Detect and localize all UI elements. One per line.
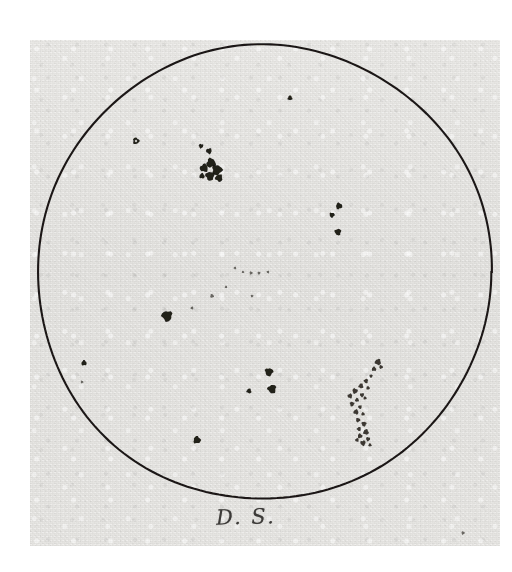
sunspot-mark	[267, 385, 277, 393]
sunspot-mark	[336, 202, 342, 209]
sunspot-mark	[246, 388, 251, 393]
sunspot-group-mark	[360, 440, 365, 446]
sunspot-group-mark	[368, 443, 372, 446]
sunspot-group-mark	[363, 396, 367, 399]
sunspot-mark	[225, 286, 228, 289]
sunspot-group-mark	[372, 366, 377, 371]
sunspot-mark	[200, 163, 208, 172]
sunspot-group-mark	[369, 375, 373, 378]
sunspot-mark	[206, 148, 212, 154]
sunspot-mark	[242, 271, 245, 273]
screenshot-root: D. S.	[0, 0, 512, 572]
sunspot-group-mark	[358, 405, 362, 409]
sunspot-group-mark	[353, 409, 358, 415]
sunspot-mark	[287, 96, 292, 100]
sunspot-mark	[81, 381, 84, 384]
sunspot-mark	[334, 229, 341, 236]
sunspot-mark	[205, 172, 215, 181]
sunspot-mark	[191, 306, 194, 309]
sunspot-mark	[161, 311, 173, 322]
sunspot-mark	[267, 271, 270, 274]
sunspot-group-mark	[350, 402, 355, 407]
sunspot-group-mark	[364, 379, 369, 383]
solar-disc-circle	[38, 44, 492, 498]
sunspot-group-mark	[355, 438, 359, 442]
sunspot-group-mark	[358, 433, 363, 438]
sunspot-mark	[330, 213, 335, 218]
sunspot-group-chain	[347, 359, 382, 447]
sunspot-mark	[233, 267, 236, 270]
sunspot-mark	[193, 436, 201, 443]
sunspot-group-mark	[366, 386, 370, 389]
sunspot-group-mark	[360, 393, 364, 397]
sunspot-group-mark	[361, 412, 364, 416]
sunspot-drawing	[0, 0, 512, 572]
sunspot-mark	[461, 531, 464, 535]
sunspot-mark	[265, 368, 274, 376]
sunspot-group-mark	[347, 393, 352, 398]
disc-limb-outline	[38, 44, 492, 498]
observer-signature: D. S.	[216, 504, 276, 530]
sunspot-mark	[251, 295, 254, 298]
sunspot-group-mark	[379, 365, 383, 369]
sunspot-group-mark	[356, 418, 360, 422]
sunspot-group-mark	[353, 388, 358, 394]
sunspot-mark	[199, 173, 205, 179]
sunspot-mark	[199, 144, 204, 149]
sunspot-group-mark	[358, 383, 363, 388]
sunspot-group-mark	[361, 422, 366, 427]
sunspot-group-mark	[355, 398, 359, 402]
sunspot-mark	[258, 272, 261, 275]
sunspot-mark	[81, 360, 86, 365]
sunspot-mark	[210, 294, 214, 298]
sunspot-markers	[81, 96, 465, 535]
sunspot-group-mark	[356, 427, 360, 431]
sunspot-mark	[250, 271, 253, 274]
sunspot-group-mark	[366, 437, 370, 441]
sunspot-group-mark	[363, 429, 369, 435]
sunspot-mark	[215, 174, 223, 182]
sunspot-group-mark	[375, 359, 381, 366]
sunspot-penumbra-hole	[135, 140, 137, 142]
